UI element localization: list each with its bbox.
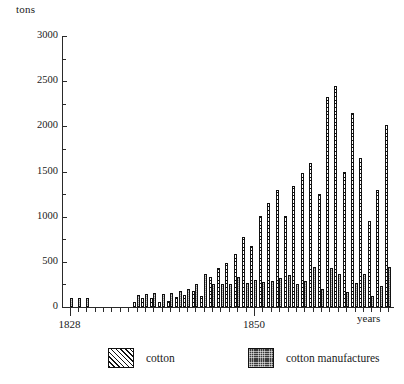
bar-cotton <box>234 254 237 307</box>
bar-cotton <box>133 302 136 307</box>
bar-cotton-manufactures <box>330 268 333 307</box>
y-tick-label: 1000 <box>22 211 58 221</box>
y-tick-label-text: 500 <box>24 256 58 266</box>
bar-cotton <box>141 298 144 307</box>
x-tick-minor <box>246 308 247 312</box>
x-tick-minor <box>355 308 356 312</box>
x-tick-minor <box>187 308 188 312</box>
bar-cotton-manufactures <box>254 280 257 307</box>
x-tick-minor <box>120 308 121 312</box>
x-tick-minor <box>170 308 171 312</box>
bar-cotton <box>284 216 287 307</box>
bar-cotton-manufactures <box>296 284 299 307</box>
legend-item-cotton: cotton <box>108 348 175 368</box>
x-tick-minor <box>296 308 297 312</box>
x-tick-minor <box>304 308 305 312</box>
bar-cotton <box>343 172 346 308</box>
bar-cotton-manufactures <box>304 281 307 307</box>
bar-cotton <box>242 237 245 307</box>
y-tick-label-text: 1000 <box>24 211 58 221</box>
chart-legend: cotton cotton manufactures <box>0 348 404 376</box>
x-tick-minor <box>237 308 238 312</box>
x-tick-minor <box>271 308 272 312</box>
legend-item-cotton-manufactures: cotton manufactures <box>248 348 380 368</box>
bar-cotton <box>158 302 161 307</box>
x-tick-minor <box>338 308 339 312</box>
bar-cotton-manufactures <box>371 296 374 307</box>
bar-cotton <box>209 277 212 307</box>
x-tick-minor <box>179 308 180 312</box>
x-tick-minor <box>262 308 263 312</box>
x-tick-minor <box>153 308 154 312</box>
bar-cotton <box>250 246 253 307</box>
bar-cotton <box>276 190 279 307</box>
bar-cotton <box>309 163 312 307</box>
x-tick-minor <box>288 308 289 312</box>
bar-cotton-manufactures <box>145 294 148 307</box>
bar-cotton-manufactures <box>153 293 156 307</box>
bar-cotton <box>292 186 295 307</box>
bar-cotton-manufactures <box>388 267 391 307</box>
x-tick-minor <box>103 308 104 312</box>
bar-cotton-manufactures <box>221 284 224 307</box>
x-tick-minor <box>86 308 87 312</box>
x-axis-label: years <box>357 312 380 324</box>
x-tick-minor <box>346 308 347 312</box>
x-tick-minor <box>212 308 213 312</box>
bar-cotton <box>301 173 304 307</box>
y-tick-label-text: 2500 <box>24 75 58 85</box>
bar-cotton <box>385 125 388 307</box>
x-tick-minor <box>229 308 230 312</box>
bar-cotton-manufactures <box>355 283 358 307</box>
legend-swatch-cotton-manufactures <box>248 348 274 368</box>
bar-cotton <box>376 190 379 307</box>
bar-cotton <box>183 295 186 307</box>
bar-cotton-manufactures <box>204 274 207 307</box>
bar-cotton <box>192 291 195 307</box>
x-tick-label: 1828 <box>50 318 90 330</box>
bar-cotton <box>225 263 228 307</box>
bar-cotton <box>259 216 262 307</box>
x-tick-minor <box>204 308 205 312</box>
bar-cotton-manufactures <box>363 274 366 307</box>
bar-cotton-manufactures <box>246 283 249 307</box>
x-tick-minor <box>220 308 221 312</box>
x-tick-minor <box>162 308 163 312</box>
x-tick-minor <box>321 308 322 312</box>
x-tick-minor <box>371 308 372 312</box>
bar-cotton-manufactures <box>179 291 182 307</box>
x-tick-minor <box>313 308 314 312</box>
bar-cotton-manufactures <box>70 298 73 307</box>
y-tick-label: 0 <box>22 301 58 311</box>
bar-cotton-manufactures <box>86 298 89 307</box>
bar-cotton <box>267 203 270 307</box>
bar-cotton-manufactures <box>170 293 173 307</box>
x-tick-minor <box>145 308 146 312</box>
bar-cotton <box>150 298 153 307</box>
bar-cotton-manufactures <box>346 292 349 307</box>
bar-cotton-manufactures <box>313 267 316 307</box>
bar-cotton <box>334 86 337 307</box>
legend-label-cotton: cotton <box>146 352 175 364</box>
bar-cotton <box>217 268 220 307</box>
bar-cotton <box>200 296 203 307</box>
x-tick-minor <box>111 308 112 312</box>
y-axis-label: tons <box>16 3 35 15</box>
bar-cotton-manufactures <box>78 298 81 307</box>
bar-cotton-manufactures <box>237 277 240 307</box>
y-tick-label: 3000 <box>22 30 58 40</box>
y-tick-label-text: 0 <box>24 301 58 311</box>
y-tick-label-text: 1500 <box>24 166 58 176</box>
bar-cotton <box>167 301 170 307</box>
y-tick-label: 1500 <box>22 166 58 176</box>
bar-cotton-manufactures <box>271 281 274 307</box>
x-tick-minor <box>329 308 330 312</box>
bar-cotton-manufactures <box>195 284 198 307</box>
x-tick-minor <box>195 308 196 312</box>
bar-cotton-manufactures <box>338 274 341 307</box>
bar-cotton-manufactures <box>229 284 232 307</box>
x-tick-minor <box>380 308 381 312</box>
legend-label-cotton-manufactures: cotton manufactures <box>286 352 380 364</box>
bar-cotton <box>318 194 321 307</box>
bar-cotton-manufactures <box>380 286 383 307</box>
